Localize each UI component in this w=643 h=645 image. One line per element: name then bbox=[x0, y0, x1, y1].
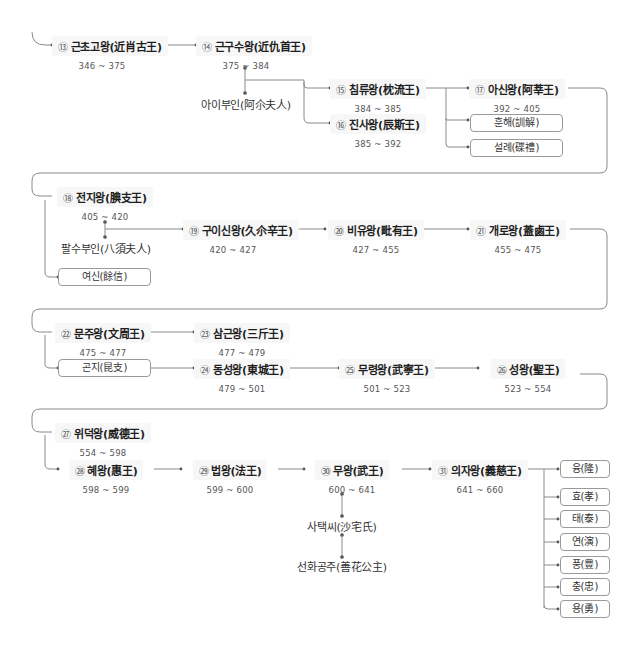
king-name: 의자왕(義慈王) bbox=[451, 465, 522, 478]
king-name: 진사왕(辰斯王) bbox=[349, 119, 420, 132]
ordinal-number: ⑭ bbox=[202, 42, 212, 53]
ordinal-number: ⑮ bbox=[336, 85, 346, 96]
reign-years: 479 ~ 501 bbox=[194, 384, 290, 394]
king-24: ㉔동성왕(東城王) 479 ~ 501 bbox=[194, 359, 290, 394]
ordinal-number: ⑲ bbox=[189, 226, 199, 237]
reign-years: 375 ~ 384 bbox=[196, 61, 296, 71]
reign-years: 346 ~ 375 bbox=[52, 61, 152, 71]
person-box-yeosin: 여신(餘信) bbox=[58, 268, 151, 286]
king-26: ㉖성왕(聖王) 523 ~ 554 bbox=[478, 359, 578, 394]
ordinal-number: ㉑ bbox=[476, 226, 486, 237]
son-box-yeon: 연(演) bbox=[560, 533, 610, 551]
king-22: ㉒문주왕(文周王) 475 ~ 477 bbox=[55, 323, 151, 358]
king-name: 구이신왕(久尒辛王) bbox=[202, 225, 293, 238]
king-14: ⑭근구수왕(近仇首王) 375 ~ 384 bbox=[196, 36, 296, 71]
king-name: 전지왕(腆支王) bbox=[76, 192, 147, 205]
king-27: ㉗위덕왕(威德王) 554 ~ 598 bbox=[55, 423, 151, 458]
reign-years: 600 ~ 641 bbox=[304, 485, 400, 495]
king-29: ㉙법왕(法王) 599 ~ 600 bbox=[182, 460, 278, 495]
reign-years: 385 ~ 392 bbox=[330, 139, 426, 149]
spouse-palsu: 팔수부인(八須夫人) bbox=[60, 240, 152, 256]
reign-years: 501 ~ 523 bbox=[339, 384, 435, 394]
reign-years: 427 ~ 455 bbox=[326, 245, 426, 255]
king-25: ㉕무령왕(武寧王) 501 ~ 523 bbox=[339, 359, 435, 394]
king-31: ㉛의자왕(義慈王) 641 ~ 660 bbox=[430, 460, 530, 495]
ordinal-number: ㉗ bbox=[61, 429, 71, 440]
reign-years: 405 ~ 420 bbox=[55, 212, 155, 222]
king-name: 성왕(聖王) bbox=[509, 364, 559, 377]
reign-years: 475 ~ 477 bbox=[55, 348, 151, 358]
person-box-gonji: 곤지(昆支) bbox=[58, 359, 151, 377]
ordinal-number: ㉛ bbox=[438, 466, 448, 477]
reign-years: 420 ~ 427 bbox=[183, 245, 283, 255]
reign-years: 392 ~ 405 bbox=[468, 104, 566, 114]
king-name: 개로왕(蓋鹵王) bbox=[489, 225, 560, 238]
ordinal-number: ⑰ bbox=[475, 85, 485, 96]
king-name: 근초고왕(近肖古王) bbox=[71, 41, 162, 54]
ordinal-number: ㉖ bbox=[497, 365, 507, 376]
reign-years: 641 ~ 660 bbox=[430, 485, 530, 495]
reign-years: 477 ~ 479 bbox=[194, 348, 290, 358]
king-name: 문주왕(文周王) bbox=[74, 328, 145, 341]
king-18: ⑱전지왕(腆支王) 405 ~ 420 bbox=[55, 187, 155, 222]
ordinal-number: ㉒ bbox=[61, 329, 71, 340]
king-30: ㉚무왕(武王) 600 ~ 641 bbox=[304, 460, 400, 495]
king-20: ⑳비유왕(毗有王) 427 ~ 455 bbox=[326, 220, 426, 255]
ordinal-number: ㉙ bbox=[199, 466, 209, 477]
king-name: 근구수왕(近仇首王) bbox=[215, 41, 306, 54]
spouse-sataek: 사택씨(沙宅氏) bbox=[296, 518, 388, 534]
son-box-tae: 태(泰) bbox=[560, 510, 610, 528]
ordinal-number: ⑳ bbox=[334, 226, 344, 237]
reign-years: 598 ~ 599 bbox=[58, 485, 154, 495]
baekje-royal-genealogy: ⑬근초고왕(近肖古王) 346 ~ 375 ⑭근구수왕(近仇首王) 375 ~ … bbox=[0, 0, 643, 645]
king-23: ㉓삼근왕(三斤王) 477 ~ 479 bbox=[194, 323, 290, 358]
king-15: ⑮침류왕(枕流王) 384 ~ 385 bbox=[330, 79, 426, 114]
spouse-seonhwa: 선화공주(善花公主) bbox=[290, 558, 394, 574]
son-box-hyo: 효(孝) bbox=[560, 488, 610, 506]
king-21: ㉑개로왕(蓋鹵王) 455 ~ 475 bbox=[468, 220, 568, 255]
reign-years: 599 ~ 600 bbox=[182, 485, 278, 495]
king-name: 위덕왕(威德王) bbox=[74, 428, 145, 441]
spouse-aii: 아이부인(阿尒夫人) bbox=[200, 96, 292, 112]
king-name: 무령왕(武寧王) bbox=[358, 364, 429, 377]
king-17: ⑰아신왕(阿莘王) 392 ~ 405 bbox=[468, 79, 566, 114]
ordinal-number: ⑬ bbox=[58, 42, 68, 53]
reign-years: 455 ~ 475 bbox=[468, 245, 568, 255]
person-box-seollye: 설례(碟禮) bbox=[470, 139, 563, 157]
king-name: 무왕(武王) bbox=[333, 465, 383, 478]
person-box-hunhae: 훈해(訓解) bbox=[470, 114, 563, 132]
ordinal-number: ㉔ bbox=[200, 365, 210, 376]
king-name: 비유왕(毗有王) bbox=[347, 225, 418, 238]
son-box-yung: 융(隆) bbox=[560, 460, 610, 478]
son-box-chung: 충(忠) bbox=[560, 578, 610, 596]
king-name: 혜왕(惠王) bbox=[87, 465, 137, 478]
ordinal-number: ⑯ bbox=[336, 120, 346, 131]
reign-years: 523 ~ 554 bbox=[478, 384, 578, 394]
ordinal-number: ⑱ bbox=[63, 193, 73, 204]
king-28: ㉘혜왕(惠王) 598 ~ 599 bbox=[58, 460, 154, 495]
king-name: 법왕(法王) bbox=[211, 465, 261, 478]
son-box-pung: 풍(豊) bbox=[560, 556, 610, 574]
king-name: 동성왕(東城王) bbox=[213, 364, 284, 377]
king-name: 삼근왕(三斤王) bbox=[213, 328, 284, 341]
king-13: ⑬근초고왕(近肖古王) 346 ~ 375 bbox=[52, 36, 152, 71]
ordinal-number: ㉕ bbox=[345, 365, 355, 376]
reign-years: 554 ~ 598 bbox=[55, 448, 151, 458]
king-name: 침류왕(枕流王) bbox=[349, 84, 420, 97]
ordinal-number: ㉓ bbox=[200, 329, 210, 340]
son-box-yong: 용(勇) bbox=[560, 600, 610, 618]
king-19: ⑲구이신왕(久尒辛王) 420 ~ 427 bbox=[183, 220, 283, 255]
ordinal-number: ㉚ bbox=[321, 466, 331, 477]
king-16: ⑯진사왕(辰斯王) 385 ~ 392 bbox=[330, 114, 426, 149]
king-name: 아신왕(阿莘王) bbox=[488, 84, 559, 97]
reign-years: 384 ~ 385 bbox=[330, 104, 426, 114]
ordinal-number: ㉘ bbox=[75, 466, 85, 477]
